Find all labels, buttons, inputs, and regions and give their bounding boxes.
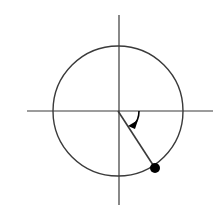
- radius-line: [118, 111, 155, 168]
- point-on-circle: [150, 163, 160, 173]
- diagram-canvas: [0, 0, 214, 205]
